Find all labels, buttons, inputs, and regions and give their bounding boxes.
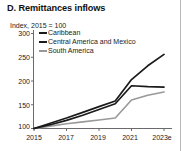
- chart-plot-area: [0, 0, 181, 151]
- series-line-caribbean: [34, 54, 164, 128]
- chart-figure: D. Remittances inflows Index, 2015 = 100…: [0, 0, 181, 151]
